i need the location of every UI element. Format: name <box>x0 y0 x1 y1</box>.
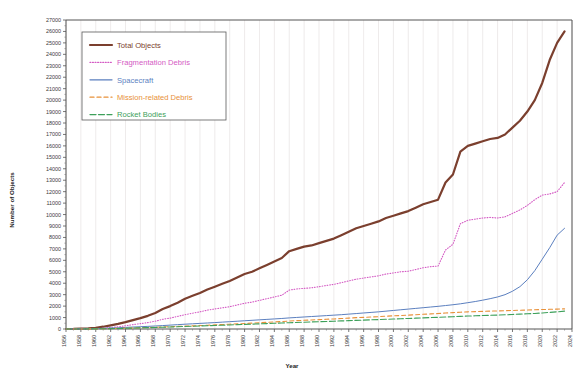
x-tick-label: 2016 <box>507 335 513 347</box>
x-tick-label: 1970 <box>165 335 171 347</box>
x-tick-label: 1996 <box>359 335 365 347</box>
x-tick-label: 1990 <box>314 335 320 347</box>
y-tick-label: 2000 <box>49 303 61 309</box>
x-tick-label: 2000 <box>388 335 394 347</box>
x-tick-label: 1956 <box>61 335 67 347</box>
x-tick-label: 1966 <box>135 335 141 347</box>
y-tick-label: 25000 <box>46 40 61 46</box>
x-tick-label: 2024 <box>567 335 573 347</box>
x-tick-label: 1982 <box>254 335 260 347</box>
x-tick-label: 2020 <box>537 335 543 347</box>
x-tick-label: 1988 <box>299 335 305 347</box>
y-tick-label: 17000 <box>46 131 61 137</box>
y-tick-label: 11000 <box>46 200 61 206</box>
y-tick-label: 21000 <box>46 86 61 92</box>
x-tick-label: 1984 <box>269 335 275 347</box>
y-tick-label: 0 <box>58 326 61 332</box>
x-axis-ticks: 1956195819601962196419661968197019721974… <box>61 329 573 347</box>
y-tick-label: 18000 <box>46 120 61 126</box>
x-tick-label: 2008 <box>448 335 454 347</box>
y-tick-label: 3000 <box>49 292 61 298</box>
legend-label-fragmentation-debris: Fragmentation Debris <box>117 58 190 67</box>
x-tick-label: 1960 <box>91 335 97 347</box>
x-tick-label: 1972 <box>180 335 186 347</box>
y-tick-label: 13000 <box>46 177 61 183</box>
y-tick-label: 7000 <box>49 246 61 252</box>
y-tick-label: 23000 <box>46 63 61 69</box>
y-tick-label: 27000 <box>46 17 61 23</box>
x-tick-label: 1992 <box>329 335 335 347</box>
x-tick-label: 1986 <box>284 335 290 347</box>
y-axis-ticks: 0100020003000400050006000700080009000100… <box>46 17 66 332</box>
y-tick-label: 6000 <box>49 257 61 263</box>
x-tick-label: 2012 <box>478 335 484 347</box>
x-tick-label: 2002 <box>403 335 409 347</box>
x-tick-label: 2022 <box>552 335 558 347</box>
x-axis-title: Year <box>285 362 299 369</box>
y-tick-label: 12000 <box>46 189 61 195</box>
y-tick-label: 1000 <box>49 315 61 321</box>
x-tick-label: 1968 <box>150 335 156 347</box>
orbital-objects-line-chart: 0100020003000400050006000700080009000100… <box>0 0 582 384</box>
chart-legend: Total ObjectsFragmentation DebrisSpacecr… <box>82 32 226 120</box>
y-tick-label: 9000 <box>49 223 61 229</box>
y-tick-label: 4000 <box>49 280 61 286</box>
y-tick-label: 16000 <box>46 143 61 149</box>
y-tick-label: 26000 <box>46 28 61 34</box>
x-tick-label: 1974 <box>195 335 201 347</box>
x-tick-label: 1958 <box>76 335 82 347</box>
legend-label-total-objects: Total Objects <box>117 41 161 50</box>
x-tick-label: 1998 <box>374 335 380 347</box>
y-tick-label: 19000 <box>46 109 61 115</box>
y-axis-title: Number of Objects <box>8 172 15 228</box>
x-tick-label: 2006 <box>433 335 439 347</box>
y-tick-label: 8000 <box>49 234 61 240</box>
x-tick-label: 2004 <box>418 335 424 347</box>
x-tick-label: 1976 <box>210 335 216 347</box>
y-tick-label: 24000 <box>46 51 61 57</box>
legend-label-rocket-bodies: Rocket Bodies <box>117 110 166 119</box>
x-tick-label: 2018 <box>522 335 528 347</box>
y-tick-label: 15000 <box>46 154 61 160</box>
x-tick-label: 1994 <box>344 335 350 347</box>
x-tick-label: 1980 <box>240 335 246 347</box>
x-tick-label: 2010 <box>463 335 469 347</box>
x-tick-label: 1964 <box>121 335 127 347</box>
y-tick-label: 14000 <box>46 166 61 172</box>
legend-label-mission-related-debris: Mission-related Debris <box>117 93 193 102</box>
y-tick-label: 22000 <box>46 74 61 80</box>
x-tick-label: 1962 <box>106 335 112 347</box>
y-tick-label: 5000 <box>49 269 61 275</box>
chart-container: 0100020003000400050006000700080009000100… <box>0 0 582 384</box>
y-tick-label: 20000 <box>46 97 61 103</box>
x-tick-label: 2014 <box>493 335 499 347</box>
series-line-fragmentation-debris <box>66 183 565 329</box>
y-tick-label: 10000 <box>46 212 61 218</box>
legend-label-spacecraft: Spacecraft <box>117 76 154 85</box>
x-tick-label: 1978 <box>225 335 231 347</box>
